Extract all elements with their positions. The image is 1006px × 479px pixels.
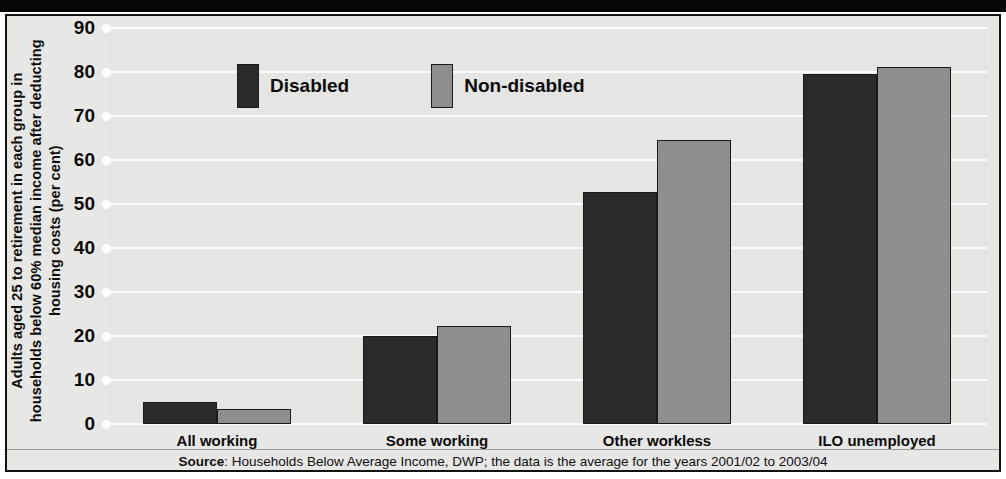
y-tick-label: 20 — [39, 325, 95, 347]
chart-legend: DisabledNon-disabled — [237, 64, 585, 108]
bar-non-disabled-all-working — [217, 409, 291, 424]
gridline-dot — [102, 420, 111, 429]
gridline-dot — [102, 156, 111, 165]
source-text: : Households Below Average Income, DWP; … — [224, 454, 827, 469]
y-tick-label: 50 — [39, 193, 95, 215]
source-label: Source — [179, 454, 225, 469]
legend-swatch — [431, 64, 453, 108]
legend-label: Disabled — [270, 75, 349, 97]
legend-label: Non-disabled — [464, 75, 584, 97]
bar-disabled-other-workless — [583, 192, 657, 424]
gridline-dot — [102, 200, 111, 209]
y-tick-label: 40 — [39, 237, 95, 259]
bar-non-disabled-other-workless — [657, 140, 731, 424]
bar-disabled-all-working — [143, 402, 217, 424]
y-tick-label: 30 — [39, 281, 95, 303]
gridline-dot — [102, 288, 111, 297]
y-tick-label: 10 — [39, 369, 95, 391]
legend-swatch — [237, 64, 259, 108]
y-tick-label: 60 — [39, 149, 95, 171]
x-label-other-workless: Other workless — [603, 432, 711, 449]
bar-non-disabled-some-working — [437, 326, 511, 424]
source-divider — [7, 449, 999, 450]
x-label-some-working: Some working — [386, 432, 489, 449]
chart-frame: Adults aged 25 to retirement in each gro… — [5, 14, 1001, 472]
gridline-dot — [102, 112, 111, 121]
legend-item-disabled: Disabled — [237, 64, 349, 108]
y-tick-label: 80 — [39, 61, 95, 83]
bar-disabled-ilo-unemployed — [803, 74, 877, 424]
y-tick-label: 0 — [39, 413, 95, 435]
gridline-dot — [102, 376, 111, 385]
y-tick-label: 90 — [39, 17, 95, 39]
title-strip — [0, 0, 1006, 12]
x-label-all-working: All working — [177, 432, 258, 449]
x-label-ilo-unemployed: ILO unemployed — [818, 432, 936, 449]
chart-figure: Adults aged 25 to retirement in each gro… — [0, 0, 1006, 479]
bar-non-disabled-ilo-unemployed — [877, 67, 951, 424]
legend-item-non-disabled: Non-disabled — [431, 64, 584, 108]
gridline-dot — [102, 244, 111, 253]
source-note: Source: Households Below Average Income,… — [7, 454, 999, 469]
gridline-dot — [102, 332, 111, 341]
gridline-dot — [102, 24, 111, 33]
gridline — [107, 27, 987, 29]
y-tick-label: 70 — [39, 105, 95, 127]
bar-disabled-some-working — [363, 336, 437, 424]
gridline-dot — [102, 68, 111, 77]
